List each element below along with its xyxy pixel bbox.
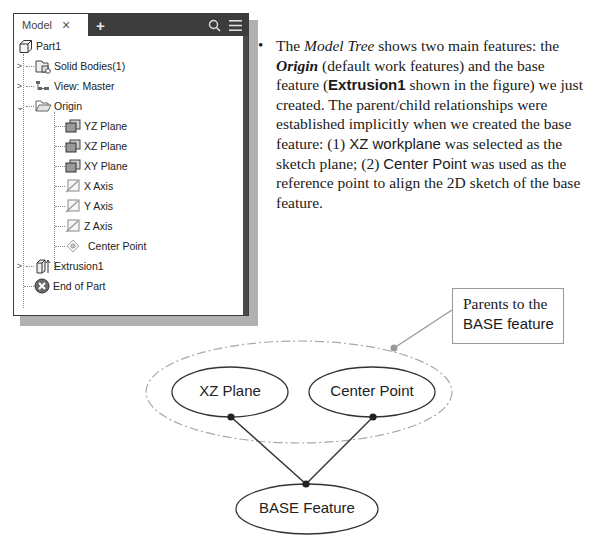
node-label-base-feature: BASE Feature	[236, 499, 378, 516]
junction-dot	[227, 413, 234, 420]
parent-child-diagram	[0, 0, 589, 545]
callout-anchor-dot	[391, 345, 398, 352]
node-label-center-point: Center Point	[309, 382, 435, 399]
junction-dot	[302, 480, 309, 487]
junction-dot	[369, 413, 376, 420]
node-label-xz-plane: XZ Plane	[172, 382, 288, 399]
callout-leader-line	[394, 310, 452, 348]
callout-box: Parents to the BASE feature	[452, 288, 564, 344]
edge-xz-to-base	[231, 417, 306, 484]
callout-line-1: Parents to the	[463, 294, 563, 314]
callout-line-2: BASE feature	[463, 314, 563, 334]
edge-center-to-base	[306, 417, 373, 484]
